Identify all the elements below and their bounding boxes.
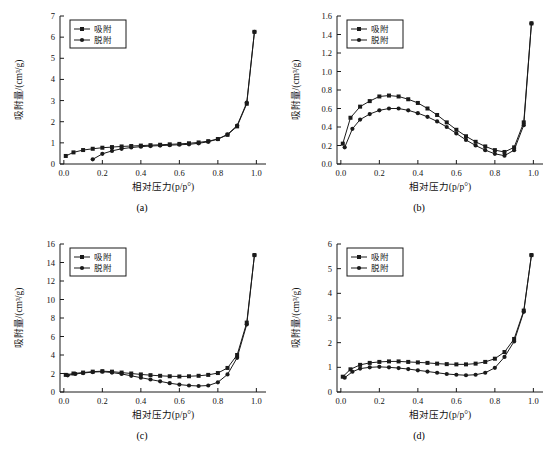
panel-label-a: (a): [8, 202, 276, 213]
plot-area-d: 0.00.20.40.60.81.00123456相对压力(p/p°)吸附量/(…: [285, 232, 553, 432]
svg-text:1.0: 1.0: [528, 396, 539, 406]
svg-text:1.0: 1.0: [528, 168, 539, 178]
panel-label-c: (c): [8, 430, 276, 441]
svg-text:0.0: 0.0: [321, 159, 332, 169]
svg-text:吸附: 吸附: [94, 252, 112, 262]
svg-text:吸附量/(cm³/g): 吸附量/(cm³/g): [13, 60, 25, 121]
svg-text:6: 6: [51, 32, 55, 42]
svg-text:相对压力(p/p°): 相对压力(p/p°): [132, 409, 194, 421]
figure-grid: 0.00.20.40.60.81.001234567相对压力(p/p°)吸附量/…: [0, 0, 555, 471]
svg-text:0.4: 0.4: [413, 168, 424, 178]
svg-text:0.8: 0.8: [490, 396, 501, 406]
svg-text:2: 2: [328, 338, 332, 348]
svg-text:6: 6: [328, 239, 332, 249]
plot-area-b: 0.00.20.40.60.81.00.00.20.40.60.81.01.21…: [285, 4, 553, 204]
svg-text:0.2: 0.2: [97, 396, 108, 406]
svg-text:0.8: 0.8: [213, 168, 224, 178]
svg-text:0.4: 0.4: [413, 396, 424, 406]
svg-text:16: 16: [47, 239, 56, 249]
svg-text:0.6: 0.6: [451, 168, 462, 178]
svg-text:脱附: 脱附: [371, 35, 389, 45]
svg-text:0.6: 0.6: [174, 396, 185, 406]
svg-text:0.4: 0.4: [321, 122, 332, 132]
panel-a: 0.00.20.40.60.81.001234567相对压力(p/p°)吸附量/…: [8, 4, 276, 232]
svg-text:脱附: 脱附: [371, 263, 389, 273]
svg-text:0.8: 0.8: [213, 396, 224, 406]
svg-text:5: 5: [328, 264, 332, 274]
svg-text:相对压力(p/p°): 相对压力(p/p°): [409, 181, 471, 193]
svg-text:3: 3: [328, 313, 332, 323]
svg-text:吸附量/(cm³/g): 吸附量/(cm³/g): [13, 288, 25, 349]
svg-text:0.4: 0.4: [136, 396, 147, 406]
svg-text:吸附量/(cm³/g): 吸附量/(cm³/g): [290, 60, 302, 121]
svg-text:0.8: 0.8: [490, 168, 501, 178]
panel-label-d: (d): [285, 430, 553, 441]
svg-text:4: 4: [51, 350, 56, 360]
svg-text:2: 2: [51, 369, 55, 379]
svg-text:吸附: 吸附: [371, 24, 389, 34]
svg-text:0.0: 0.0: [59, 168, 70, 178]
svg-text:10: 10: [47, 295, 56, 305]
panel-d: 0.00.20.40.60.81.00123456相对压力(p/p°)吸附量/(…: [285, 232, 553, 460]
svg-text:吸附量/(cm³/g): 吸附量/(cm³/g): [290, 288, 302, 349]
svg-text:6: 6: [51, 332, 55, 342]
svg-text:1.2: 1.2: [321, 48, 332, 58]
svg-text:1: 1: [328, 362, 332, 372]
panel-label-b: (b): [285, 202, 553, 213]
svg-text:0.0: 0.0: [336, 168, 347, 178]
svg-text:4: 4: [51, 74, 56, 84]
svg-text:脱附: 脱附: [94, 35, 112, 45]
svg-text:0.4: 0.4: [136, 168, 147, 178]
svg-text:0.2: 0.2: [321, 141, 332, 151]
svg-text:7: 7: [51, 11, 55, 21]
panel-b: 0.00.20.40.60.81.00.00.20.40.60.81.01.21…: [285, 4, 553, 232]
svg-text:吸附: 吸附: [94, 24, 112, 34]
svg-text:1.4: 1.4: [321, 30, 332, 40]
svg-text:12: 12: [47, 276, 56, 286]
svg-text:3: 3: [51, 96, 55, 106]
plot-area-a: 0.00.20.40.60.81.001234567相对压力(p/p°)吸附量/…: [8, 4, 276, 204]
svg-text:2: 2: [51, 117, 55, 127]
plot-area-c: 0.00.20.40.60.81.00246810121416相对压力(p/p°…: [8, 232, 276, 432]
svg-text:0: 0: [51, 387, 55, 397]
svg-text:0.0: 0.0: [336, 396, 347, 406]
svg-text:0.6: 0.6: [174, 168, 185, 178]
svg-text:脱附: 脱附: [94, 263, 112, 273]
svg-text:相对压力(p/p°): 相对压力(p/p°): [409, 409, 471, 421]
svg-text:1.6: 1.6: [321, 11, 332, 21]
svg-text:0.2: 0.2: [97, 168, 108, 178]
svg-text:吸附: 吸附: [371, 252, 389, 262]
svg-text:8: 8: [51, 313, 55, 323]
panel-c: 0.00.20.40.60.81.00246810121416相对压力(p/p°…: [8, 232, 276, 460]
svg-text:1.0: 1.0: [251, 168, 262, 178]
svg-text:5: 5: [51, 53, 55, 63]
svg-text:0: 0: [328, 387, 332, 397]
svg-text:0.2: 0.2: [374, 168, 385, 178]
svg-text:0: 0: [51, 159, 55, 169]
svg-text:1: 1: [51, 138, 55, 148]
svg-text:0.6: 0.6: [321, 104, 332, 114]
svg-text:0.0: 0.0: [59, 396, 70, 406]
svg-text:0.2: 0.2: [374, 396, 385, 406]
svg-text:4: 4: [328, 288, 333, 298]
svg-text:相对压力(p/p°): 相对压力(p/p°): [132, 181, 194, 193]
svg-text:14: 14: [47, 258, 56, 268]
svg-text:1.0: 1.0: [251, 396, 262, 406]
svg-text:0.8: 0.8: [321, 85, 332, 95]
svg-text:0.6: 0.6: [451, 396, 462, 406]
svg-text:1.0: 1.0: [321, 67, 332, 77]
